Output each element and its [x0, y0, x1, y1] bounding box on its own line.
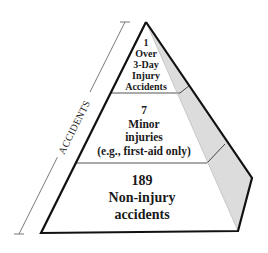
level-bottom-line: accidents — [72, 206, 212, 223]
level-top-line: Over — [116, 48, 176, 59]
level-middle-count: 7 — [84, 104, 204, 118]
level-top-line: 3-Day — [116, 59, 176, 70]
level-middle-line: Minor — [84, 118, 204, 132]
level-middle-line: injuries — [84, 131, 204, 145]
level-top-count: 1 — [116, 37, 176, 48]
level-bottom-label: 189 Non-injury accidents — [72, 172, 212, 223]
level-bottom-line: Non-injury — [72, 189, 212, 206]
level-top-line: Accidents — [116, 81, 176, 92]
level-middle-line: (e.g., first-aid only) — [84, 145, 204, 159]
accident-pyramid-diagram: ACCIDENTS 1 Over 3-Day Injury Accidents … — [0, 0, 268, 253]
level-middle-label: 7 Minor injuries (e.g., first-aid only) — [84, 104, 204, 158]
level-top-line: Injury — [116, 70, 176, 81]
level-top-label: 1 Over 3-Day Injury Accidents — [116, 37, 176, 92]
level-bottom-count: 189 — [72, 172, 212, 189]
